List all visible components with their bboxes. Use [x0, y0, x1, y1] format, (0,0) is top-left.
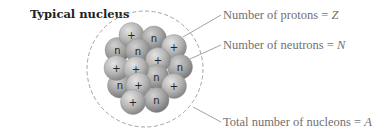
nucleons-variable: A [363, 115, 372, 129]
plus-icon: + [112, 63, 120, 74]
nucleons-leader-line [193, 107, 221, 122]
neutron-symbol: n [153, 95, 159, 106]
neutrons-label: Number of neutrons = N [223, 38, 346, 52]
plus-icon: + [129, 97, 137, 108]
nucleon-cluster: nn+nn++n+n+++n+ [104, 23, 193, 115]
neutron-symbol: n [114, 45, 120, 56]
neutron-symbol: n [153, 72, 159, 83]
plus-icon: + [170, 42, 178, 53]
protons-variable: Z [331, 8, 339, 22]
neutron-ball: n [144, 88, 169, 113]
plus-icon: + [154, 55, 162, 66]
neutron-symbol: n [117, 80, 123, 91]
neutron-symbol: n [177, 62, 183, 73]
neutron-symbol: n [151, 33, 157, 44]
plus-icon: + [134, 80, 142, 91]
neutron-symbol: n [135, 46, 141, 57]
diagram-title: Typical nucleus [30, 7, 129, 21]
nucleons-label: Total number of nucleons = A [223, 115, 372, 129]
plus-icon: + [170, 81, 178, 92]
proton-ball: + [121, 90, 146, 115]
neutrons-leader-line [190, 45, 221, 59]
neutrons-variable: N [336, 38, 346, 52]
nucleus-diagram: Typical nucleus nn+nn++n+n+++n+ Number o… [0, 0, 379, 135]
protons-label: Number of protons = Z [223, 8, 339, 22]
protons-leader-line [183, 15, 221, 37]
